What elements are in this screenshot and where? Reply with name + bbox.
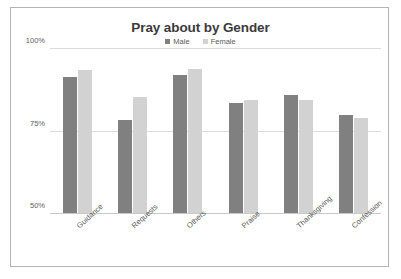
x-label-cell: Thanksgiving [271,215,326,265]
bar-group [216,49,271,214]
legend-item-male[interactable]: Male [165,37,189,46]
x-label-cell: Praise [216,215,271,265]
square-marker-male-icon [165,39,170,44]
legend-label-female: Female [211,37,236,46]
x-label-cell: Confession [326,215,381,265]
bar-group [160,49,215,214]
bar-group [50,49,105,214]
chart-title: Pray about by Gender [11,20,390,35]
bar-group [271,49,326,214]
bars-layer [50,49,381,214]
bar-male-praise[interactable] [229,103,243,214]
bar-group [105,49,160,214]
y-axis-tick-label: 100% [26,36,45,45]
chart-legend: Male Female [11,37,390,46]
x-label-cell: Guidance [50,215,105,265]
bar-male-confession[interactable] [339,115,353,214]
bar-male-guidance[interactable] [63,77,77,214]
bar-female-confession[interactable] [354,118,368,214]
y-axis-tick-label: 75% [30,118,45,127]
x-axis-category-labels: GuidanceRequestsOthersPraiseThanksgiving… [50,215,381,265]
bar-male-thanksgiving[interactable] [284,95,298,214]
x-label-cell: Requests [105,215,160,265]
bar-group [326,49,381,214]
x-label-cell: Others [160,215,215,265]
bar-female-requests[interactable] [133,97,147,214]
bar-male-requests[interactable] [118,120,132,214]
plot-area: 50%75%100% [50,49,381,214]
legend-label-male: Male [173,37,189,46]
legend-item-female[interactable]: Female [203,37,236,46]
bar-female-thanksgiving[interactable] [299,100,313,214]
square-marker-female-icon [203,39,208,44]
bar-female-guidance[interactable] [78,70,92,214]
bar-female-others[interactable] [188,69,202,214]
bar-male-others[interactable] [173,75,187,214]
chart-frame: Pray about by Gender Male Female 50%75%1… [10,7,389,267]
bar-female-praise[interactable] [244,100,258,214]
y-axis-tick-label: 50% [30,201,45,210]
